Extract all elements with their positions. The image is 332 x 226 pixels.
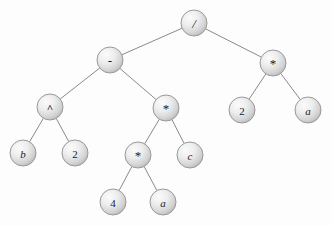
tree-edge — [30, 118, 44, 142]
tree-edge — [60, 68, 100, 99]
tree-edge — [120, 68, 156, 99]
tree-node[interactable]: b — [10, 140, 36, 166]
nodes-layer: /-*^*2ab2*c4a — [10, 10, 321, 215]
tree-node[interactable]: - — [97, 47, 123, 73]
node-label: - — [108, 53, 112, 68]
tree-node[interactable]: * — [260, 50, 286, 76]
tree-edge — [249, 74, 266, 99]
tree-node[interactable]: / — [181, 10, 207, 36]
node-label: c — [188, 150, 193, 162]
node-label: b — [20, 148, 26, 160]
node-label: 4 — [110, 197, 116, 209]
tree-edge — [144, 166, 157, 190]
tree-node[interactable]: 4 — [100, 189, 126, 215]
tree-edge — [119, 166, 132, 190]
tree-edge — [281, 73, 300, 99]
tree-node[interactable]: * — [125, 142, 151, 168]
tree-node[interactable]: c — [177, 142, 203, 168]
expression-tree-canvas: /-*^*2ab2*c4a — [0, 0, 332, 226]
tree-node[interactable]: * — [153, 95, 179, 121]
tree-edge — [206, 29, 262, 57]
node-label: * — [135, 148, 142, 163]
node-label: ^ — [47, 102, 53, 114]
tree-node[interactable]: ^ — [37, 94, 63, 120]
tree-node[interactable]: a — [150, 189, 176, 215]
tree-edge — [56, 118, 69, 141]
node-label: a — [160, 197, 166, 209]
tree-edge — [172, 120, 184, 144]
tree-node[interactable]: a — [295, 97, 321, 123]
tree-edge — [145, 119, 160, 144]
node-label: * — [270, 56, 277, 71]
expression-tree-diagram: /-*^*2ab2*c4a — [0, 0, 332, 226]
tree-node[interactable]: 2 — [229, 97, 255, 123]
node-label: 2 — [239, 105, 245, 117]
tree-edge — [122, 28, 182, 55]
node-label: 2 — [72, 148, 78, 160]
tree-node[interactable]: 2 — [62, 140, 88, 166]
node-label: a — [305, 105, 311, 117]
node-label: * — [163, 101, 170, 116]
